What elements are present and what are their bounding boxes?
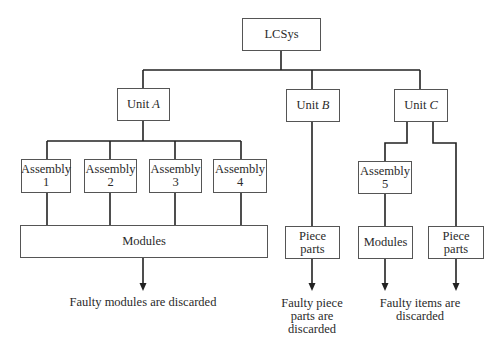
unit-c-caption-line-2: discarded <box>370 310 470 323</box>
unit-a-letter: A <box>152 97 160 111</box>
unit-c-piece-parts-box: Piece parts <box>428 226 484 259</box>
assembly-5-number: 5 <box>382 178 388 191</box>
unit-c-modules-box: Modules <box>358 226 413 259</box>
unit-a-caption-text: Faulty modules are discarded <box>70 295 217 309</box>
assembly-4-number: 4 <box>237 176 243 189</box>
unit-a-modules-box: Modules <box>20 225 268 258</box>
assembly-2-number: 2 <box>107 176 113 189</box>
assembly-4-node: Assembly 4 <box>213 159 267 193</box>
unit-c-piece-parts-label: Piece parts <box>429 230 483 256</box>
assembly-5-node: Assembly 5 <box>358 161 412 194</box>
unit-a-prefix: Unit <box>127 97 149 111</box>
unit-c-prefix: Unit <box>404 98 426 112</box>
unit-b-node: Unit B <box>286 89 340 122</box>
unit-b-caption: Faulty piece parts are discarded <box>276 297 348 336</box>
lcsys-hierarchy-diagram: LCSys Unit A Unit B Unit C Assembly 1 As… <box>0 0 502 347</box>
unit-a-caption: Faulty modules are discarded <box>60 296 226 309</box>
root-label: LCSys <box>264 28 298 41</box>
assembly-2-node: Assembly 2 <box>84 159 137 193</box>
assembly-3-number: 3 <box>172 176 178 189</box>
unit-c-node: Unit C <box>394 89 448 122</box>
assembly-5-label: Assembly <box>360 165 410 178</box>
unit-a-modules-label: Modules <box>122 235 166 248</box>
unit-c-caption: Faulty items are discarded <box>370 297 470 323</box>
assembly-3-node: Assembly 3 <box>149 159 202 193</box>
unit-c-letter: C <box>430 98 438 112</box>
unit-c-modules-label: Modules <box>364 236 408 249</box>
unit-b-caption-line-3: discarded <box>276 323 348 336</box>
unit-b-letter: B <box>322 98 330 112</box>
unit-b-piece-parts-label: Piece parts <box>286 230 339 256</box>
unit-b-prefix: Unit <box>297 98 319 112</box>
unit-b-piece-parts-box: Piece parts <box>285 226 340 259</box>
root-node-lcsys: LCSys <box>242 18 321 51</box>
assembly-1-number: 1 <box>43 176 49 189</box>
unit-a-node: Unit A <box>117 88 170 121</box>
assembly-1-node: Assembly 1 <box>21 159 71 193</box>
